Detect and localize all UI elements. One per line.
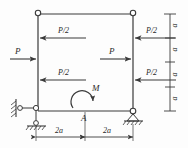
frame-members xyxy=(38,14,133,111)
label-dim-right-0: a xyxy=(170,24,179,28)
curved-moment-arrow xyxy=(71,91,93,108)
label-left-upper-half: P/2 xyxy=(58,26,69,35)
hinge-circle xyxy=(35,10,40,15)
ground-hatching xyxy=(123,121,142,125)
frame-diagram: P/2 P/2 P P P/2 P/2 M A 2a 2a a a a a xyxy=(0,0,188,148)
label-right-lower-half: P/2 xyxy=(146,68,157,77)
label-dim-bottom-1: 2a xyxy=(103,126,111,135)
pin-support-triangle xyxy=(127,114,139,121)
label-right-upper-half: P/2 xyxy=(146,26,157,35)
diagram-canvas xyxy=(0,0,188,148)
hinge-circle xyxy=(18,106,23,111)
left-support-group xyxy=(11,99,46,130)
label-mid-force: P xyxy=(109,46,115,56)
ground-hatching xyxy=(26,126,45,130)
label-moment: M xyxy=(92,83,100,93)
label-left-lower-half: P/2 xyxy=(58,68,69,77)
label-dim-bottom-0: 2a xyxy=(55,126,63,135)
label-dim-right-2: a xyxy=(170,73,179,77)
hinge-circle xyxy=(130,10,135,15)
hinge-circle xyxy=(130,108,136,114)
label-dim-right-3: a xyxy=(170,97,179,101)
label-dim-right-1: a xyxy=(170,48,179,52)
label-point-a: A xyxy=(81,113,87,123)
ground-hatching xyxy=(11,101,16,117)
hinge-circle xyxy=(33,105,38,110)
pin-support-triangle xyxy=(34,121,39,126)
label-left-force: P xyxy=(15,46,21,56)
